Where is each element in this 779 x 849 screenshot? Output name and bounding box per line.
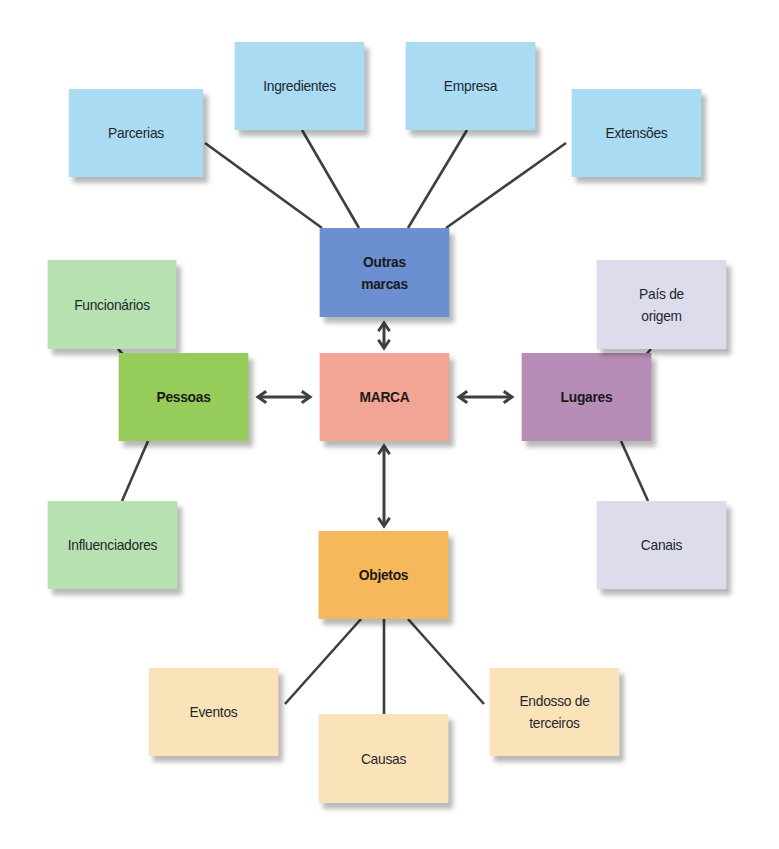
- connector-ingredientes-outras-marcas: [302, 130, 359, 228]
- node-label: Funcionários: [74, 294, 150, 316]
- node-label: Influenciadores: [68, 534, 157, 556]
- node-extensoes: Extensões: [572, 89, 702, 177]
- node-causas: Causas: [319, 714, 449, 803]
- node-pessoas: Pessoas: [119, 353, 249, 441]
- node-canais: Canais: [597, 501, 727, 589]
- node-label: Endosso de terceiros: [519, 690, 589, 734]
- node-label: Canais: [641, 534, 682, 556]
- connector-objetos-eventos: [285, 619, 361, 704]
- node-label: Lugares: [561, 386, 613, 408]
- connector-lugares-canais: [621, 441, 648, 501]
- node-influenciadores: Influenciadores: [48, 501, 178, 589]
- node-label: Eventos: [190, 701, 238, 723]
- connector-extensoes-outras-marcas: [446, 143, 566, 228]
- node-label: Extensões: [606, 122, 668, 144]
- node-eventos: Eventos: [149, 668, 279, 756]
- node-label: Pessoas: [156, 386, 210, 408]
- connector-parcerias-outras-marcas: [205, 143, 322, 228]
- node-label: Causas: [361, 748, 406, 770]
- node-objetos: Objetos: [319, 531, 449, 619]
- node-outras-marcas: Outras marcas: [320, 228, 450, 317]
- node-label: País de origem: [639, 283, 684, 327]
- connector-objetos-endosso-de-terceiros: [408, 619, 484, 704]
- node-empresa: Empresa: [406, 42, 536, 130]
- node-label: Outras marcas: [361, 251, 408, 295]
- node-ingredientes: Ingredientes: [235, 42, 365, 130]
- node-marca: MARCA: [320, 353, 450, 441]
- node-parcerias: Parcerias: [69, 89, 203, 177]
- node-lugares: Lugares: [522, 353, 652, 441]
- node-label: Ingredientes: [263, 75, 336, 97]
- brand-associations-diagram: ParceriasIngredientesEmpresaExtensõesOut…: [0, 0, 779, 849]
- node-label: Objetos: [359, 564, 408, 586]
- connector-pessoas-influenciadores: [122, 441, 148, 501]
- node-endosso-de-terceiros: Endosso de terceiros: [490, 668, 620, 756]
- node-label: Parcerias: [108, 122, 164, 144]
- node-label: MARCA: [360, 386, 410, 408]
- connector-empresa-outras-marcas: [408, 130, 467, 228]
- node-funcionarios: Funcionários: [48, 260, 177, 349]
- node-pais-de-origem: País de origem: [597, 260, 727, 349]
- node-label: Empresa: [444, 75, 497, 97]
